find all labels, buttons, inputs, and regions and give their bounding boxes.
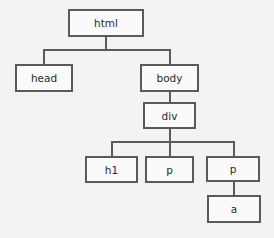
connector-to-p2 <box>233 141 235 156</box>
connector-to-head <box>43 49 45 64</box>
connector-div-branch <box>111 141 235 143</box>
connector-html-branch <box>43 49 171 51</box>
node-html: html <box>68 9 144 37</box>
node-head: head <box>15 64 73 92</box>
dom-tree-diagram: html head body div h1 p p a <box>0 0 274 238</box>
node-a: a <box>207 195 261 223</box>
connector-to-p1 <box>169 141 171 156</box>
connector-html-down <box>105 36 107 50</box>
node-p-second: p <box>206 156 260 182</box>
node-p-first: p <box>145 156 194 183</box>
connector-to-h1 <box>111 141 113 156</box>
node-h1: h1 <box>85 156 138 183</box>
connector-p2-to-a <box>233 181 235 195</box>
node-body: body <box>140 64 199 92</box>
connector-body-to-div <box>169 91 171 102</box>
node-div: div <box>143 102 196 129</box>
connector-to-body <box>169 49 171 64</box>
